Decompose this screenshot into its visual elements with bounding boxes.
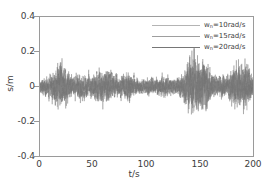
y-tick-label-1: 0.2 — [21, 47, 35, 56]
legend-item-0: wn=10rad/s — [152, 20, 252, 31]
x-tick-label-0: 0 — [24, 160, 54, 169]
legend-value-1: =15rad/s — [213, 32, 245, 40]
legend-label-2: wn=20rad/s — [204, 42, 245, 53]
legend: wn=10rad/s wn=15rad/s wn=20rad/s — [152, 20, 252, 53]
legend-symbol-1: w — [204, 32, 210, 40]
legend-line-swatch-2 — [152, 47, 200, 48]
legend-item-2: wn=20rad/s — [152, 42, 252, 53]
x-tick-label-3: 150 — [185, 160, 215, 169]
trace-20 — [40, 48, 253, 114]
legend-symbol-2: w — [204, 43, 210, 51]
legend-label-0: wn=10rad/s — [204, 20, 245, 31]
legend-value-0: =10rad/s — [213, 21, 245, 29]
x-tick-label-1: 50 — [77, 160, 107, 169]
legend-item-1: wn=15rad/s — [152, 31, 252, 42]
legend-subscript-2: n — [210, 45, 213, 51]
legend-subscript-1: n — [210, 34, 213, 40]
legend-line-swatch-1 — [152, 36, 200, 37]
y-axis-label: s/m — [6, 64, 15, 104]
x-tick-label-4: 200 — [238, 160, 268, 169]
legend-label-1: wn=15rad/s — [204, 31, 245, 42]
y-tick-label-2: 0 — [29, 82, 35, 91]
legend-subscript-0: n — [210, 23, 213, 29]
legend-symbol-0: w — [204, 21, 210, 29]
y-tick-label-0: 0.4 — [21, 12, 35, 21]
legend-value-2: =20rad/s — [213, 43, 245, 51]
x-tick-label-2: 100 — [131, 160, 161, 169]
y-tick-label-3: -0.2 — [17, 117, 35, 126]
chart-figure: 0.4 0.2 0 -0.2 -0.4 0 50 100 150 200 s/m… — [0, 0, 268, 190]
x-axis-label: t/s — [0, 170, 268, 179]
legend-line-swatch-0 — [152, 25, 200, 26]
